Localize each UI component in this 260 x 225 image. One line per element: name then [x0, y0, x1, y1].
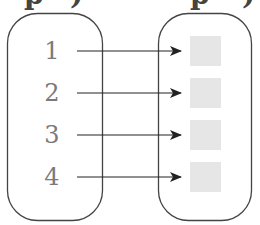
codomain-element-4: [190, 162, 221, 192]
domain-element-2: 2: [44, 79, 59, 107]
codomain-element-2: [190, 78, 221, 108]
top-text-fragment: p ) p ): [24, 0, 255, 11]
mapping-diagram: p ) p ) 1 2 3 4: [0, 0, 260, 225]
codomain-element-3: [190, 120, 221, 150]
codomain-element-1: [190, 36, 221, 66]
domain-element-4: 4: [44, 163, 59, 191]
fragment-p-right: p: [190, 0, 210, 11]
fragment-paren-right: ): [242, 0, 255, 11]
fragment-p-left: p: [24, 0, 44, 11]
fragment-paren-left: ): [70, 0, 83, 11]
domain-element-3: 3: [44, 121, 59, 149]
domain-element-1: 1: [44, 37, 59, 65]
